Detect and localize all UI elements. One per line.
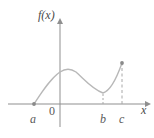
tick-label-a: a (30, 113, 36, 125)
point-marker-c (120, 61, 124, 65)
y-axis-arrowhead (57, 18, 63, 24)
tick-label-b: b (100, 113, 106, 125)
point-marker-a (32, 102, 36, 106)
y-axis-label: f(x) (38, 9, 55, 21)
origin-label: 0 (49, 105, 55, 117)
tick-label-c: c (119, 113, 124, 125)
graph-canvas (0, 0, 154, 138)
function-graph-figure: f(x) x a 0 b c (0, 0, 154, 138)
function-curve (34, 63, 122, 104)
x-axis (8, 101, 151, 107)
x-axis-label: x (141, 104, 146, 116)
